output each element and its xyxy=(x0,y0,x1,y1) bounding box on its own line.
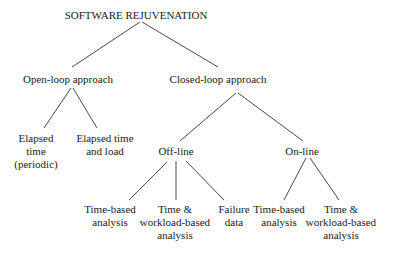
label-line: Time & xyxy=(306,203,376,216)
label-line: analysis xyxy=(253,216,305,229)
node-open-loop-label: Open-loop approach xyxy=(23,73,113,86)
label-line: Elapsed time xyxy=(76,132,133,145)
label-line: Time-based xyxy=(253,203,305,216)
node-offline-time-workload: Time & workload-based analysis xyxy=(140,203,210,242)
label-line: workload-based xyxy=(140,216,210,229)
node-closed-loop: Closed-loop approach xyxy=(170,73,267,86)
edge-root-open-loop xyxy=(72,22,140,67)
edge-offline-failure xyxy=(186,161,224,200)
edge-online-time-based xyxy=(284,158,306,200)
node-closed-loop-label: Closed-loop approach xyxy=(170,73,267,86)
label-line: time xyxy=(14,145,57,158)
node-online-time-workload: Time & workload-based analysis xyxy=(306,203,376,242)
node-offline-time-based: Time-based analysis xyxy=(84,203,136,229)
edge-root-closed-loop xyxy=(142,22,218,67)
label-line: Time & xyxy=(140,203,210,216)
label-line: Failure xyxy=(218,203,249,216)
node-offline: Off-line xyxy=(158,145,193,158)
label-line: and load xyxy=(76,145,133,158)
label-line: data xyxy=(218,216,249,229)
edge-online-time-workload xyxy=(310,158,339,200)
label-line: analysis xyxy=(306,229,376,242)
node-online: On-line xyxy=(285,145,319,158)
node-root: SOFTWARE REJUVENATION xyxy=(65,9,208,22)
label-line: analysis xyxy=(140,229,210,242)
node-online-time-based: Time-based analysis xyxy=(253,203,305,229)
node-offline-failure-data: Failure data xyxy=(218,203,249,229)
node-offline-label: Off-line xyxy=(158,145,193,158)
edge-closed-loop-online xyxy=(238,93,303,141)
node-elapsed-load: Elapsed time and load xyxy=(76,132,133,158)
label-line: analysis xyxy=(84,216,136,229)
label-line: (periodic) xyxy=(14,158,57,171)
edge-open-loop-elapsed-periodic xyxy=(44,88,71,128)
node-open-loop: Open-loop approach xyxy=(23,73,113,86)
node-elapsed-periodic: Elapsed time (periodic) xyxy=(14,132,57,171)
label-line: Time-based xyxy=(84,203,136,216)
label-line: workload-based xyxy=(306,216,376,229)
node-root-label: SOFTWARE REJUVENATION xyxy=(65,9,208,22)
label-line: Elapsed xyxy=(14,132,57,145)
software-rejuvenation-tree: SOFTWARE REJUVENATION Open-loop approach… xyxy=(0,0,393,255)
edge-closed-loop-offline xyxy=(180,93,236,141)
edge-open-loop-elapsed-load xyxy=(73,88,97,128)
edge-offline-time-based xyxy=(129,162,167,200)
node-online-label: On-line xyxy=(285,145,319,158)
